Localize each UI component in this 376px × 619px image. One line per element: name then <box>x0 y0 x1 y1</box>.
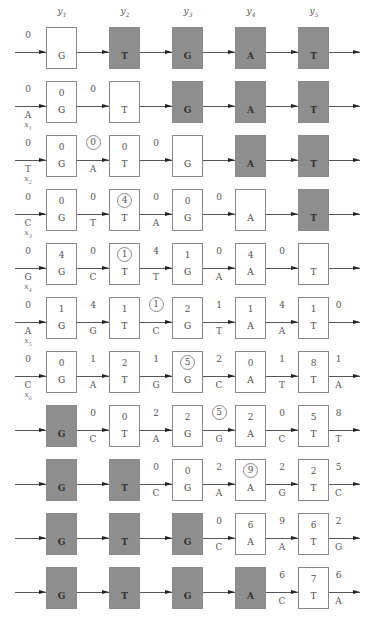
row-variable-label: x1 <box>18 120 38 131</box>
cell-box-r10-c4: 6A <box>235 513 266 555</box>
arrowhead-icon <box>39 158 46 162</box>
cell-score: 5 <box>173 355 202 370</box>
edge-weight-label: 0 <box>146 138 166 148</box>
cell-box-r9-c5: 2T <box>298 459 329 501</box>
input-symbol-label: A <box>18 110 38 120</box>
edge-weight-label: 2 <box>209 354 229 364</box>
edge-weight-label: 0 <box>272 408 292 418</box>
cell-score: 6 <box>299 520 328 530</box>
cell-nucleotide: G <box>47 159 76 169</box>
cell-box-r5-c3: 1G <box>172 243 203 285</box>
cell-box-r9-c3: 0G <box>172 459 203 501</box>
cell-box-r6-c2: 1T <box>109 297 140 339</box>
cell-box-r4-c1: 0G <box>46 189 77 231</box>
edge-weight-label: 1 <box>272 354 292 364</box>
arrowhead-icon <box>39 590 46 594</box>
input-weight-label: 0 <box>18 30 38 40</box>
cell-nucleotide: G <box>173 267 202 277</box>
edge-weight-label: 0 <box>146 192 166 202</box>
edge-symbol-label: C <box>146 326 166 336</box>
edge-symbol-label: G <box>146 380 166 390</box>
arrowhead-icon <box>165 320 172 324</box>
edge-symbol-label: A <box>83 380 103 390</box>
cell-nucleotide: G <box>47 429 76 439</box>
cell-score: 5 <box>299 412 328 422</box>
arrowhead-icon <box>39 482 46 486</box>
arrowhead-icon <box>353 590 360 594</box>
row-variable-label: x4 <box>18 282 38 293</box>
cell-box-r4-c2: 4T <box>109 189 140 231</box>
arrowhead-icon <box>353 482 360 486</box>
edge-symbol-label: A <box>329 596 349 606</box>
input-symbol-label: C <box>18 380 38 390</box>
edge-weight-label: 0 <box>272 246 292 256</box>
edge-symbol-label: C <box>83 272 103 282</box>
cell-score: 1 <box>299 304 328 314</box>
cell-box-r1-c4: A <box>235 27 266 69</box>
arrowhead-icon <box>102 320 109 324</box>
cell-box-r11-c1: G <box>46 567 77 609</box>
cell-box-r2-c5: T <box>298 81 329 123</box>
cell-box-r9-c2: T <box>109 459 140 501</box>
edge-weight-label: 0 <box>329 300 349 310</box>
arrowhead-icon <box>39 320 46 324</box>
cell-score: 0 <box>173 466 202 476</box>
edge-symbol-label: T <box>209 326 229 336</box>
edge-weight-label: 2 <box>329 516 349 526</box>
arrowhead-icon <box>102 50 109 54</box>
cell-nucleotide: G <box>47 483 76 493</box>
cell-box-r6-c1: 1G <box>46 297 77 339</box>
circled-score: 4 <box>117 193 132 208</box>
edge-symbol-label: C <box>329 488 349 498</box>
edge-weight-label: 0 <box>83 408 103 418</box>
arrowhead-icon <box>39 212 46 216</box>
cell-box-r4-c3: 0G <box>172 189 203 231</box>
arrowhead-icon <box>228 482 235 486</box>
cell-box-r3-c1: 0G <box>46 135 77 177</box>
cell-box-r8-c1: G <box>46 405 77 447</box>
edge-weight-label: 1 <box>329 354 349 364</box>
edge-weight-label: 0 <box>83 192 103 202</box>
header-subscript: 1 <box>63 11 67 18</box>
arrowhead-icon <box>228 50 235 54</box>
edge-weight-label: 1 <box>209 300 229 310</box>
cell-nucleotide: G <box>173 321 202 331</box>
cell-nucleotide: T <box>299 591 328 601</box>
arrowhead-icon <box>291 482 298 486</box>
cell-nucleotide: G <box>173 105 202 115</box>
edge-weight-label: 1 <box>146 354 166 364</box>
arrowhead-icon <box>291 536 298 540</box>
cell-nucleotide: G <box>173 375 202 385</box>
arrowhead-icon <box>228 266 235 270</box>
input-symbol-label: G <box>18 272 38 282</box>
cell-score: 8 <box>299 358 328 368</box>
arrowhead-icon <box>165 104 172 108</box>
arrowhead-icon <box>228 212 235 216</box>
input-weight-label: 0 <box>18 354 38 364</box>
arrowhead-icon <box>291 104 298 108</box>
cell-score: 1 <box>47 304 76 314</box>
cell-box-r6-c4: 1A <box>235 297 266 339</box>
cell-score: 0 <box>236 358 265 368</box>
cell-nucleotide: A <box>236 51 265 61</box>
edge-symbol-label: T <box>83 218 103 228</box>
cell-nucleotide: T <box>110 105 139 115</box>
arrowhead-icon <box>39 266 46 270</box>
circled-score: 5 <box>180 355 195 370</box>
edge-symbol-label: C <box>272 596 292 606</box>
cell-score: 1 <box>173 250 202 260</box>
arrowhead-icon <box>165 428 172 432</box>
cell-box-r2-c2: T <box>109 81 140 123</box>
arrowhead-icon <box>39 536 46 540</box>
cell-box-r4-c5: T <box>298 189 329 231</box>
cell-box-r8-c4: 2A <box>235 405 266 447</box>
cell-box-r5-c1: 4G <box>46 243 77 285</box>
cell-box-r11-c5: 7T <box>298 567 329 609</box>
cell-box-r3-c4: A <box>235 135 266 177</box>
arrowhead-icon <box>165 212 172 216</box>
edge-symbol-label: T <box>272 380 292 390</box>
edge-symbol-label: G <box>209 434 229 444</box>
cell-box-r6-c3: 2G <box>172 297 203 339</box>
edge-weight-label: 4 <box>146 246 166 256</box>
cell-nucleotide: G <box>47 51 76 61</box>
